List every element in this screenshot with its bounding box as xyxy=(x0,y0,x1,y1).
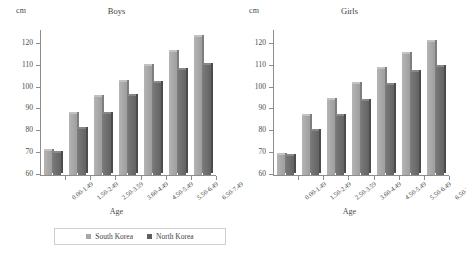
bar-side xyxy=(211,63,213,173)
y-axis-tick: 100 xyxy=(269,87,273,88)
bar-south-korea xyxy=(69,114,77,175)
legend-swatch-south-korea xyxy=(86,234,91,239)
bar-group xyxy=(144,33,163,175)
bar-south-korea xyxy=(277,155,285,175)
bar-side xyxy=(444,65,446,173)
y-axis-tick-label: 110 xyxy=(22,60,33,69)
bar-side xyxy=(394,83,396,173)
bar-south-korea xyxy=(327,100,335,175)
bar-north-korea xyxy=(436,67,444,175)
bar-south-korea xyxy=(302,116,310,175)
bar-group xyxy=(44,33,63,175)
bar-side xyxy=(344,114,346,173)
x-axis-line xyxy=(40,175,216,176)
bar-side xyxy=(186,68,188,173)
bar-north-korea xyxy=(286,156,294,175)
y-axis-tick: 100 xyxy=(36,87,40,88)
x-axis-category-label: 4.50-5.49 xyxy=(170,180,194,201)
bar-face xyxy=(169,52,177,175)
y-axis-tick-label: 70 xyxy=(259,147,267,156)
bar-face xyxy=(153,83,161,175)
bar-north-korea xyxy=(411,72,419,175)
bar-group xyxy=(352,33,371,175)
legend-swatch-north-korea xyxy=(147,234,152,239)
bar-north-korea xyxy=(103,114,111,175)
y-axis-tick: 60 xyxy=(36,174,40,175)
x-axis-category-label: 5.50-6.49 xyxy=(195,180,219,201)
bar-side xyxy=(319,129,321,173)
bar-south-korea xyxy=(377,69,385,175)
bar-north-korea xyxy=(336,116,344,175)
bar-face xyxy=(277,155,285,175)
bar-south-korea xyxy=(402,54,410,175)
bar-group xyxy=(302,33,321,175)
bar-face xyxy=(144,66,152,175)
bar-group xyxy=(377,33,396,175)
y-axis-tick: 110 xyxy=(36,65,40,66)
bar-north-korea xyxy=(128,96,136,175)
bar-group xyxy=(94,33,113,175)
y-axis-tick: 120 xyxy=(269,43,273,44)
y-axis-tick: 90 xyxy=(269,108,273,109)
y-axis-tick-label: 90 xyxy=(259,103,267,112)
x-axis-category-label: 2.50-3.59 xyxy=(353,180,377,201)
x-axis-tick xyxy=(424,176,425,180)
bar-north-korea xyxy=(311,131,319,175)
x-axis-category-label: 1.50-2.49 xyxy=(95,180,119,201)
x-axis-tick xyxy=(449,176,450,180)
bar-side xyxy=(369,99,371,173)
bar-side xyxy=(419,70,421,173)
y-axis-tick: 80 xyxy=(269,130,273,131)
y-axis-tick-label: 120 xyxy=(255,38,266,47)
y-axis-tick-label: 60 xyxy=(26,169,34,178)
y-axis-tick-label: 100 xyxy=(255,82,266,91)
bar-face xyxy=(286,156,294,175)
x-axis-tick xyxy=(374,176,375,180)
y-axis-line xyxy=(273,30,274,176)
bar-south-korea xyxy=(144,66,152,175)
bar-north-korea xyxy=(53,153,61,175)
bar-face xyxy=(311,131,319,175)
bar-south-korea xyxy=(44,151,52,175)
bar-face xyxy=(361,101,369,175)
x-axis-category-label: 6.50-7.49 xyxy=(453,180,466,201)
bar-side xyxy=(161,81,163,173)
x-axis-category-label: 5.50-6.49 xyxy=(428,180,452,201)
x-axis-tick xyxy=(216,176,217,180)
panel-boys: cm Boys 607080901001101200.00-1.491.50-2… xyxy=(0,0,233,253)
bar-face xyxy=(411,72,419,175)
y-axis-tick-label: 110 xyxy=(255,60,266,69)
y-axis-tick: 90 xyxy=(36,108,40,109)
bar-face xyxy=(94,97,102,175)
y-axis-line xyxy=(40,30,41,176)
x-axis-tick xyxy=(348,176,349,180)
bar-face xyxy=(119,82,127,175)
bar-south-korea xyxy=(119,82,127,175)
y-axis-tick-label: 120 xyxy=(22,38,33,47)
x-axis-category-label: 0.00-1.49 xyxy=(303,180,327,201)
bar-face xyxy=(53,153,61,175)
x-axis-tick xyxy=(191,176,192,180)
bar-north-korea xyxy=(386,85,394,175)
bar-face xyxy=(302,116,310,175)
bar-face xyxy=(327,100,335,175)
bar-group xyxy=(194,33,213,175)
bar-north-korea xyxy=(361,101,369,175)
figure-two-panel-bar-charts: cm Boys 607080901001101200.00-1.491.50-2… xyxy=(0,0,466,253)
bar-side xyxy=(61,151,63,173)
y-axis-tick: 60 xyxy=(269,174,273,175)
bar-side xyxy=(111,112,113,173)
y-axis-tick-label: 80 xyxy=(26,125,34,134)
bar-side xyxy=(86,127,88,173)
bar-group xyxy=(169,33,188,175)
y-axis-tick-label: 80 xyxy=(259,125,267,134)
plot-area-boys: 607080901001101200.00-1.491.50-2.492.50-… xyxy=(40,33,216,176)
bar-face xyxy=(203,65,211,175)
chart-title-girls: Girls xyxy=(233,6,466,16)
bar-north-korea xyxy=(203,65,211,175)
x-axis-tick xyxy=(298,176,299,180)
x-axis-tick xyxy=(90,176,91,180)
legend-item-north-korea: North Korea xyxy=(147,232,194,241)
x-axis-line xyxy=(273,175,449,176)
x-axis-category-label: 0.00-1.49 xyxy=(70,180,94,201)
